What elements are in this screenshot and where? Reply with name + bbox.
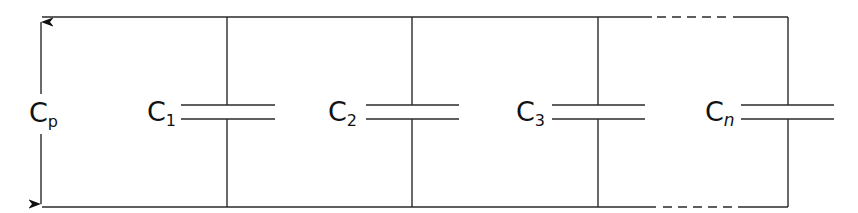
capacitor-c2: C2 [328, 17, 459, 207]
capacitor-c1-label: C1 [147, 96, 176, 130]
total-capacitance-label: Cp [29, 97, 58, 131]
capacitor-cn: Cn [705, 17, 834, 207]
capacitor-cn-label: Cn [705, 96, 735, 130]
capacitor-c3-label: C3 [516, 96, 545, 130]
total-capacitance-arrow: Cp [29, 22, 58, 204]
capacitor-c3: C3 [516, 17, 645, 207]
parallel-capacitor-diagram: Cp C1 C2 [0, 0, 858, 213]
capacitor-c2-label: C2 [328, 96, 357, 130]
capacitor-c1: C1 [147, 17, 275, 207]
